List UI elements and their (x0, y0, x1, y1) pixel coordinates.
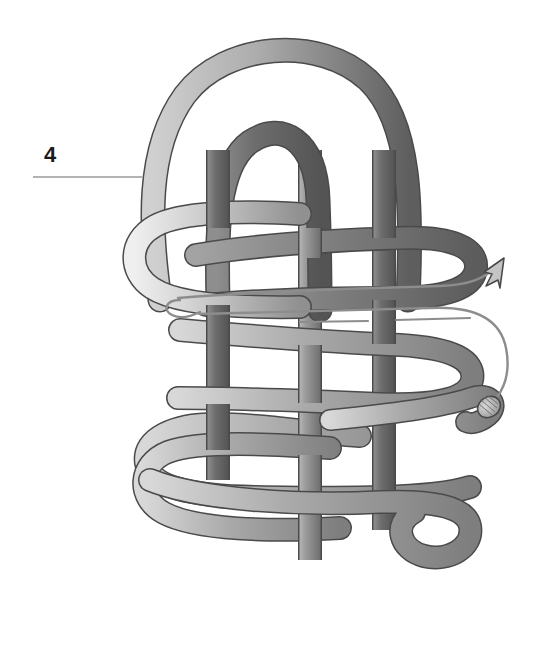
callout-number-4: 4 (44, 144, 56, 166)
knot-illustration (0, 0, 546, 663)
knot-diagram-figure: 4 (0, 0, 546, 663)
